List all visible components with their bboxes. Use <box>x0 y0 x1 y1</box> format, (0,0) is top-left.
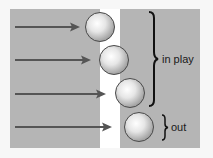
ball-3-icon <box>116 79 145 108</box>
out-label: out <box>171 121 186 133</box>
ball-1-icon <box>86 13 115 42</box>
in-play-label: in play <box>162 53 194 65</box>
ball-4-icon <box>125 113 154 142</box>
ball-in-play-diagram: in play out <box>0 0 213 158</box>
ball-2-icon <box>100 46 129 75</box>
